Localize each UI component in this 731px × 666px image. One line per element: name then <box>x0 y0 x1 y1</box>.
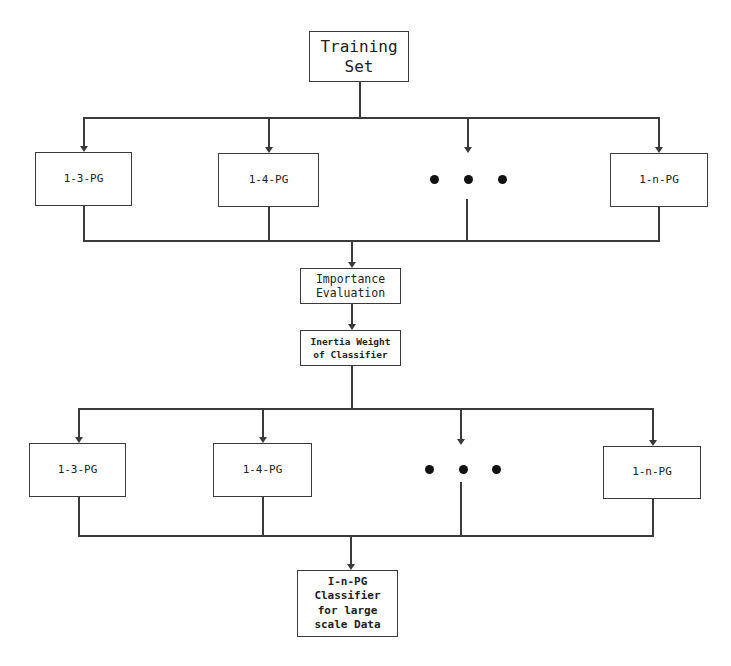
ellipsis-dot-icon <box>498 175 507 184</box>
inertia-label-line-2: of Classifier <box>313 348 387 361</box>
connector-line <box>268 117 270 151</box>
connector-line <box>83 240 659 242</box>
inertia-label-line-1: Inertia Weight <box>310 335 390 348</box>
importance-label-line-2: Evaluation <box>316 286 385 300</box>
box-label: 1-4-PG <box>249 174 289 187</box>
connector-line <box>78 497 80 535</box>
arrow-down-icon <box>464 147 472 153</box>
final-classifier-box: I-n-PG Classifier for large scale Data <box>297 570 398 637</box>
connector-line <box>351 366 353 409</box>
flowchart: Training Set 1-3-PG 1-4-PG 1-n-PG Import… <box>0 0 731 666</box>
final-label-line-1: I-n-PG <box>328 575 368 589</box>
connector-line <box>460 482 462 535</box>
connector-line <box>359 82 361 118</box>
stage2-box-1-3-pg: 1-3-PG <box>29 443 126 497</box>
final-label-line-2: Classifier <box>314 589 380 603</box>
box-label: 1-n-PG <box>639 174 679 187</box>
ellipsis-dot-icon <box>430 175 439 184</box>
connector-line <box>466 199 468 241</box>
connector-line <box>78 535 653 537</box>
connector-line <box>83 117 659 119</box>
ellipsis-dot-icon <box>492 465 501 474</box>
stage2-box-1-4-pg: 1-4-PG <box>213 443 312 497</box>
connector-line <box>83 206 85 241</box>
connector-line <box>78 408 653 410</box>
connector-line <box>262 497 264 535</box>
box-label: 1-4-PG <box>243 464 283 477</box>
training-set-label-line-1: Training <box>320 37 397 57</box>
final-label-line-4: scale Data <box>314 618 380 632</box>
connector-line <box>652 408 654 444</box>
box-label: 1-3-PG <box>64 173 104 186</box>
importance-label-line-1: Importance <box>316 272 385 286</box>
box-label: 1-n-PG <box>632 466 672 479</box>
box-label: 1-3-PG <box>58 464 98 477</box>
importance-evaluation-box: Importance Evaluation <box>300 268 401 304</box>
stage1-box-1-3-pg: 1-3-PG <box>35 152 132 206</box>
final-label-line-3: for large <box>318 604 378 618</box>
arrow-down-icon <box>457 439 465 445</box>
connector-line <box>460 408 462 443</box>
inertia-weight-box: Inertia Weight of Classifier <box>300 330 401 366</box>
training-set-box: Training Set <box>309 31 409 82</box>
connector-line <box>350 535 352 567</box>
stage1-box-1-n-pg: 1-n-PG <box>610 153 708 207</box>
stage1-box-1-4-pg: 1-4-PG <box>218 153 319 207</box>
ellipsis-dot-icon <box>425 465 434 474</box>
ellipsis-dot-icon <box>464 175 473 184</box>
connector-line <box>658 207 660 242</box>
connector-line <box>658 117 660 151</box>
ellipsis-dot-icon <box>459 465 468 474</box>
connector-line <box>467 117 469 151</box>
stage2-box-1-n-pg: 1-n-PG <box>603 446 701 499</box>
connector-line <box>268 207 270 241</box>
connector-line <box>652 499 654 537</box>
training-set-label-line-2: Set <box>345 57 374 77</box>
